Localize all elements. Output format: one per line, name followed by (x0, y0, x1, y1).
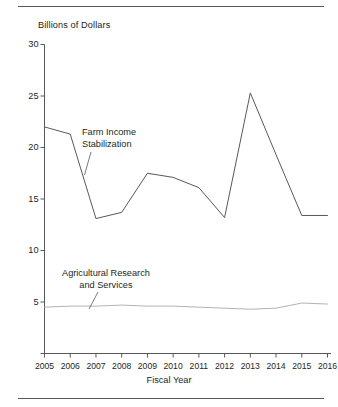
leader-line-farm-income (85, 152, 92, 175)
chart-canvas (0, 0, 338, 407)
y-tick-label: 30 (15, 39, 39, 49)
y-tick-label: 15 (15, 194, 39, 204)
y-tick-label: 25 (15, 91, 39, 101)
series-line-farm-income (45, 93, 328, 219)
plot-area: 5101520253020052006200720082009201020112… (0, 0, 338, 407)
series-annotation-agricultural-research: Agricultural Research and Services (62, 268, 150, 291)
y-tick-label: 20 (15, 142, 39, 152)
y-tick-label: 5 (15, 297, 39, 307)
y-tick-label: 10 (15, 245, 39, 255)
chart-figure: Billions of Dollars Fiscal Year 51015202… (0, 0, 338, 407)
series-annotation-farm-income: Farm Income Stabilization (82, 127, 136, 150)
series-line-agricultural-research (45, 303, 328, 309)
x-tick-label: 2016 (313, 361, 338, 371)
